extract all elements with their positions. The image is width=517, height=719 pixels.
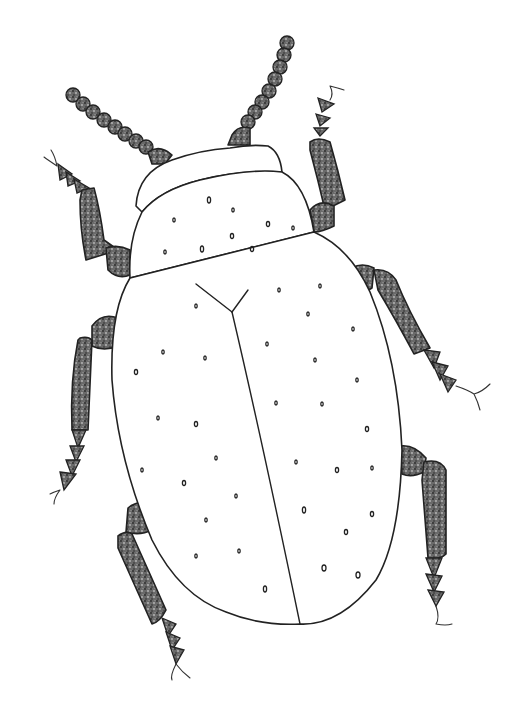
beetle-drawing [0,0,517,719]
right-antenna [228,36,294,145]
beetle-illustration [0,0,517,719]
front-left-leg [44,150,130,277]
hind-right-leg [400,446,452,625]
left-antenna [66,88,172,164]
front-right-leg [310,86,345,232]
middle-left-leg [50,316,118,504]
beetle-elytra [112,232,402,624]
